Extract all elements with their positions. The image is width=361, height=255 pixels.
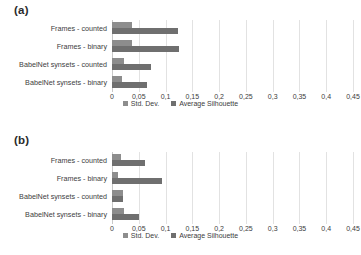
bar-avg-silhouette — [112, 160, 145, 166]
x-tick-label: 0 — [110, 93, 114, 100]
legend-swatch-icon — [123, 101, 128, 106]
plot-area-b: Frames - countedFrames - binaryBabelNet … — [0, 152, 361, 230]
category-label: BabelNet synsets - counted — [19, 188, 107, 206]
x-tick-label: 0,3 — [268, 225, 278, 232]
x-tick-label: 0,15 — [186, 225, 200, 232]
bar-group — [112, 188, 353, 206]
legend-item[interactable]: Average Silhouette — [171, 100, 238, 107]
x-tick-label: 0,4 — [321, 225, 331, 232]
legend-label: Std. Dev. — [131, 100, 159, 107]
x-tick-label: 0,25 — [239, 225, 253, 232]
x-tick-label: 0 — [110, 225, 114, 232]
bar-avg-silhouette — [112, 178, 162, 184]
bar-avg-silhouette — [112, 196, 123, 202]
legend-b: Std. Dev.Average Silhouette — [0, 232, 361, 239]
plot-area-a: Frames - countedFrames - binaryBabelNet … — [0, 20, 361, 98]
bar-group — [112, 152, 353, 170]
x-tick-label: 0,25 — [239, 93, 253, 100]
bar-avg-silhouette — [112, 28, 178, 34]
category-label: Frames - counted — [51, 152, 107, 170]
legend-item[interactable]: Std. Dev. — [123, 100, 159, 107]
x-tick-label: 0,35 — [293, 93, 307, 100]
x-tick-label: 0,3 — [268, 93, 278, 100]
x-tick-label: 0,4 — [321, 93, 331, 100]
x-tick-label: 0,2 — [214, 93, 224, 100]
legend-item[interactable]: Std. Dev. — [123, 232, 159, 239]
panel-label-b: (b) — [14, 134, 29, 146]
x-tick-label: 0,05 — [132, 225, 146, 232]
x-tick-label: 0,1 — [161, 93, 171, 100]
category-label: Frames - binary — [57, 170, 107, 188]
bar-group — [112, 170, 353, 188]
category-label: Frames - counted — [51, 20, 107, 38]
x-tick-label: 0,15 — [186, 93, 200, 100]
axis-area-a — [112, 20, 353, 92]
bar-group — [112, 20, 353, 38]
legend-swatch-icon — [123, 233, 128, 238]
gridline — [353, 20, 354, 92]
bar-avg-silhouette — [112, 214, 139, 220]
gridline — [353, 152, 354, 224]
legend-label: Average Silhouette — [179, 100, 238, 107]
legend-swatch-icon — [171, 233, 176, 238]
legend-a: Std. Dev.Average Silhouette — [0, 100, 361, 107]
chart-panel-a: (a) Frames - countedFrames - binaryBabel… — [0, 0, 361, 128]
legend-label: Average Silhouette — [179, 232, 238, 239]
x-tick-label: 0,45 — [346, 225, 360, 232]
category-labels-b: Frames - countedFrames - binaryBabelNet … — [0, 152, 110, 224]
bar-group — [112, 56, 353, 74]
category-label: BabelNet synsets - binary — [25, 74, 107, 92]
bar-group — [112, 206, 353, 224]
panel-label-a: (a) — [14, 4, 29, 16]
legend-item[interactable]: Average Silhouette — [171, 232, 238, 239]
chart-panel-b: (b) Frames - countedFrames - binaryBabel… — [0, 128, 361, 255]
x-tick-label: 0,45 — [346, 93, 360, 100]
x-tick-label: 0,05 — [132, 93, 146, 100]
legend-label: Std. Dev. — [131, 232, 159, 239]
bar-avg-silhouette — [112, 46, 179, 52]
legend-swatch-icon — [171, 101, 176, 106]
axis-area-b — [112, 152, 353, 224]
bar-group — [112, 74, 353, 92]
x-tick-label: 0,1 — [161, 225, 171, 232]
category-label: BabelNet synsets - binary — [25, 206, 107, 224]
category-label: Frames - binary — [57, 38, 107, 56]
x-tick-label: 0,2 — [214, 225, 224, 232]
bar-avg-silhouette — [112, 64, 151, 70]
category-labels-a: Frames - countedFrames - binaryBabelNet … — [0, 20, 110, 92]
bar-group — [112, 38, 353, 56]
bar-avg-silhouette — [112, 82, 147, 88]
category-label: BabelNet synsets - counted — [19, 56, 107, 74]
x-tick-label: 0,35 — [293, 225, 307, 232]
